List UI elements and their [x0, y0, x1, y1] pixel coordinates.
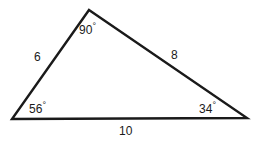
- angle-label-bottom-left: 56°: [29, 103, 46, 116]
- side-label-bottom: 10: [119, 125, 133, 138]
- triangle-diagram-canvas: 90° 56° 34° 6 8 10: [0, 0, 258, 147]
- angle-label-apex: 90°: [79, 24, 96, 37]
- angle-label-bottom-right: 34°: [199, 103, 216, 116]
- side-label-right: 8: [171, 49, 178, 62]
- side-label-left: 6: [34, 51, 41, 64]
